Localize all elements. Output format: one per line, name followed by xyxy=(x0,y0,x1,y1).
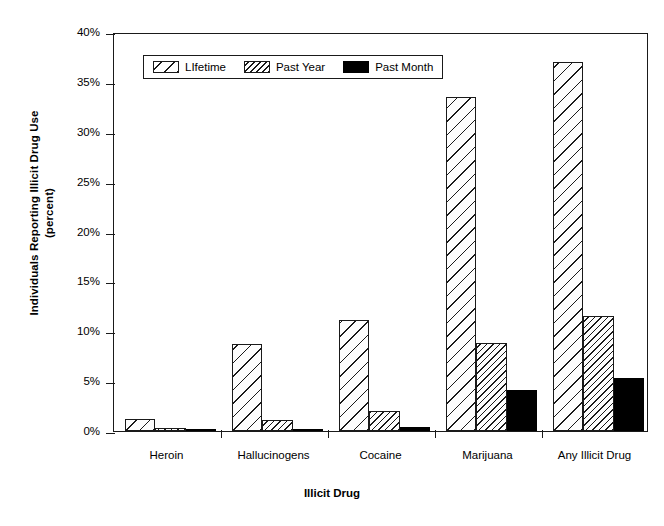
legend-label-lifetime: LIfetime xyxy=(185,61,226,73)
bar-cocaine-lifetime xyxy=(339,320,370,431)
legend-item-past-month: Past Month xyxy=(343,61,433,73)
bar-cocaine-past-year xyxy=(369,411,400,431)
y-axis-tick-label: 20% xyxy=(54,227,100,239)
x-axis-tick xyxy=(328,430,329,438)
y-axis-tick xyxy=(106,383,115,384)
legend-item-lifetime: LIfetime xyxy=(153,61,226,73)
y-axis-tick-label: 40% xyxy=(54,27,100,39)
y-axis-tick xyxy=(106,34,115,35)
bar-marijuana-past-year xyxy=(476,343,507,431)
legend-swatch-past-month xyxy=(343,61,369,73)
bar-hallucinogens-past-month xyxy=(293,429,324,431)
legend-swatch-past-year xyxy=(244,61,270,73)
bar-marijuana-lifetime xyxy=(446,97,477,431)
legend-item-past-year: Past Year xyxy=(244,61,325,73)
y-axis-tick-label: 35% xyxy=(54,77,100,89)
y-axis-tick-label: 0% xyxy=(54,426,100,438)
bar-any-illicit-drug-past-year xyxy=(583,316,614,431)
legend-swatch-lifetime xyxy=(153,61,179,73)
y-axis-tick xyxy=(106,84,115,85)
legend-label-past-month: Past Month xyxy=(375,61,433,73)
bar-heroin-past-year xyxy=(155,428,186,431)
x-axis-label-hallucinogens: Hallucinogens xyxy=(220,449,327,461)
y-axis-tick-label: 15% xyxy=(54,276,100,288)
y-axis-tick-label: 30% xyxy=(54,127,100,139)
y-axis-title-line-1: Individuals Reporting Illicit Drug Use xyxy=(27,110,42,315)
chart-legend: LIfetime Past Year Past Month xyxy=(143,55,443,79)
x-axis-label-cocaine: Cocaine xyxy=(327,449,434,461)
legend-label-past-year: Past Year xyxy=(276,61,325,73)
y-axis-tick xyxy=(106,283,115,284)
x-axis-label-heroin: Heroin xyxy=(113,449,220,461)
bar-marijuana-past-month xyxy=(507,390,538,431)
bar-any-illicit-drug-past-month xyxy=(614,378,645,431)
bar-hallucinogens-lifetime xyxy=(232,344,263,431)
bar-any-illicit-drug-lifetime xyxy=(553,62,584,431)
y-axis-title: Individuals Reporting Illicit Drug Use (… xyxy=(25,63,59,363)
bar-hallucinogens-past-year xyxy=(262,420,293,431)
x-axis-label-any-illicit-drug: Any Illicit Drug xyxy=(541,449,648,461)
x-axis-tick xyxy=(542,430,543,438)
y-axis-tick xyxy=(106,433,115,434)
x-axis-tick xyxy=(221,430,222,438)
y-axis-tick xyxy=(106,333,115,334)
plot-inner xyxy=(114,34,647,431)
y-axis-tick xyxy=(106,234,115,235)
x-axis-label-marijuana: Marijuana xyxy=(434,449,541,461)
chart-figure: Individuals Reporting Illicit Drug Use (… xyxy=(0,0,664,526)
y-axis-tick-label: 25% xyxy=(54,177,100,189)
x-axis-title: Illicit Drug xyxy=(0,487,664,499)
bar-heroin-lifetime xyxy=(125,419,156,431)
y-axis-tick-label: 5% xyxy=(54,376,100,388)
y-axis-tick xyxy=(106,134,115,135)
y-axis-tick xyxy=(106,184,115,185)
bar-heroin-past-month xyxy=(186,429,217,431)
plot-area: LIfetime Past Year Past Month xyxy=(113,33,648,432)
bar-cocaine-past-month xyxy=(400,427,431,431)
y-axis-tick-label: 10% xyxy=(54,326,100,338)
x-axis-tick xyxy=(435,430,436,438)
